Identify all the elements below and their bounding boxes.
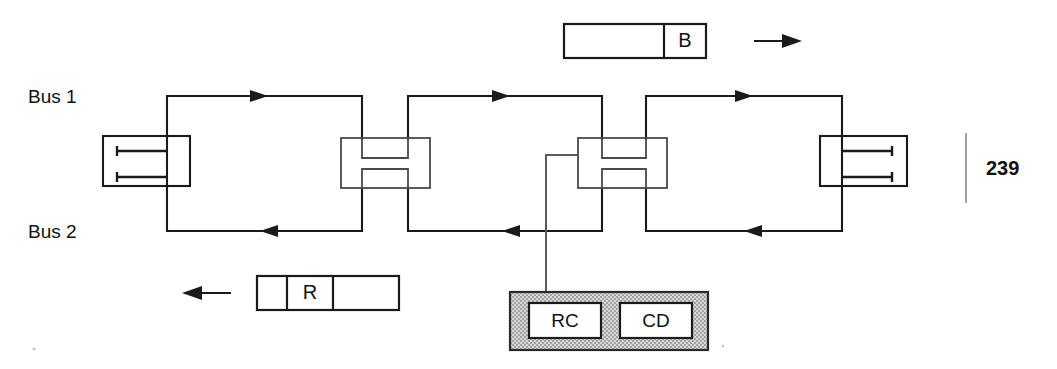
station-box[interactable]: RC CD [510, 292, 708, 350]
bus-1-label: Bus 1 [28, 86, 77, 107]
bus-1-path [167, 96, 842, 165]
page-number: 239 [986, 157, 1019, 179]
bus-2-path [167, 165, 842, 231]
bus-2-arrow-1 [260, 225, 278, 237]
figure-page: Bus 1 Bus 2 [0, 0, 1057, 369]
scan-speck [32, 347, 35, 350]
bus-1-arrow-2 [492, 90, 510, 102]
scan-speck [722, 345, 725, 348]
frame-busy-bit-label: B [678, 29, 691, 51]
bus-ring-diagram: Bus 1 Bus 2 [0, 0, 1057, 369]
frame-request-arrow [182, 286, 202, 300]
station-drop-line [546, 155, 578, 295]
node-4-terminator-right[interactable] [820, 136, 907, 186]
bus-2-arrow-2 [502, 225, 520, 237]
frame-busy-arrow [782, 34, 802, 48]
bus-2-label: Bus 2 [28, 221, 77, 242]
bus-1-arrow-3 [735, 90, 753, 102]
frame-request-bit-label: R [303, 281, 317, 303]
frame-request[interactable]: R [182, 276, 399, 310]
bus-1-arrow-1 [250, 90, 268, 102]
frame-busy[interactable]: B [564, 24, 802, 58]
node-1-terminator-left[interactable] [103, 136, 190, 186]
node-3-repeater-station[interactable] [578, 138, 667, 188]
node-2-repeater[interactable] [341, 138, 430, 188]
module-rc-label: RC [551, 310, 578, 331]
module-cd-label: CD [642, 310, 669, 331]
bus-2-arrow-3 [744, 225, 762, 237]
